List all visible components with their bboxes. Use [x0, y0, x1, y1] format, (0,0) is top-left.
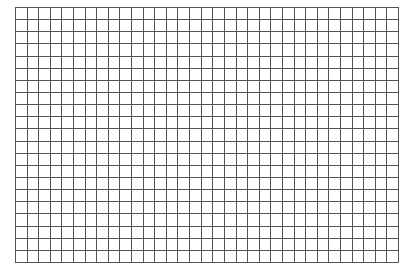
grid-paper	[15, 7, 399, 263]
grid-lines	[15, 7, 399, 263]
